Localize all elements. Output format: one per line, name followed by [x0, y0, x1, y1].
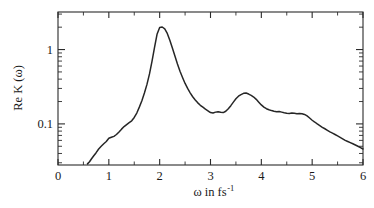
axes-frame — [58, 12, 363, 165]
y-tick-label: 0.1 — [37, 117, 53, 131]
x-axis-major-ticks — [58, 12, 363, 165]
data-series-group — [87, 27, 363, 164]
y-axis-minor-ticks — [58, 14, 363, 163]
x-tick-label: 1 — [106, 169, 112, 183]
x-tick-label: 6 — [360, 169, 366, 183]
x-tick-label: 4 — [258, 169, 265, 183]
x-tick-label: 5 — [309, 169, 315, 183]
data-curve-re-k — [87, 27, 363, 164]
x-axis-title: ω in fs — [193, 185, 226, 199]
figure-root: 0123456 0.11 ω in fs -1 Re K (ω) — [0, 0, 374, 208]
x-tick-label: 2 — [157, 169, 163, 183]
x-axis-title-exponent: -1 — [227, 183, 234, 193]
x-axis-minor-ticks — [83, 12, 337, 165]
y-axis-title-group: Re K (ω) — [11, 65, 25, 111]
x-tick-label: 0 — [55, 169, 61, 183]
y-axis-tick-labels: 0.11 — [37, 43, 53, 131]
y-axis-title: Re K (ω) — [11, 65, 25, 111]
x-tick-label: 3 — [207, 169, 213, 183]
plot-frame — [58, 12, 363, 165]
x-axis-tick-labels: 0123456 — [55, 169, 366, 183]
y-tick-label: 1 — [47, 43, 53, 57]
chart-canvas: 0123456 0.11 ω in fs -1 Re K (ω) — [0, 0, 374, 208]
x-axis-title-group: ω in fs -1 — [193, 183, 234, 199]
